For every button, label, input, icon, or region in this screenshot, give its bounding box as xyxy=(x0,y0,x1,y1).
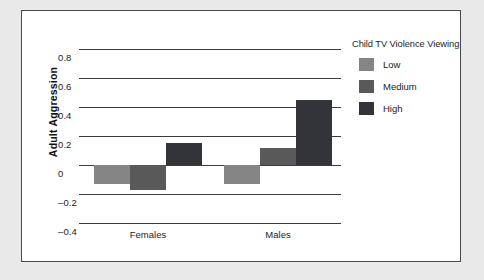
x-axis-label-females: Females xyxy=(108,229,188,240)
legend-items: LowMediumHigh xyxy=(352,58,460,115)
legend-swatch-high xyxy=(359,102,374,115)
bar-males-low xyxy=(224,165,260,184)
legend-item-low: Low xyxy=(352,58,460,71)
legend-label-high: High xyxy=(383,103,403,114)
bar-females-medium xyxy=(130,165,166,190)
chart-legend: Child TV Violence Viewing LowMediumHigh xyxy=(352,39,460,124)
legend-label-low: Low xyxy=(383,59,400,70)
bar-males-high xyxy=(296,100,332,165)
bar-females-low xyxy=(94,165,130,184)
legend-item-medium: Medium xyxy=(352,80,460,93)
bar-females-high xyxy=(166,143,202,165)
legend-swatch-low xyxy=(359,58,374,71)
bar-males-medium xyxy=(260,148,296,165)
chart-figure-frame: Adult Aggression 0.80.60.40.20–0.2–0.4 F… xyxy=(21,10,461,262)
legend-swatch-medium xyxy=(359,80,374,93)
x-axis-label-males: Males xyxy=(238,229,318,240)
legend-title: Child TV Violence Viewing xyxy=(352,39,460,49)
legend-item-high: High xyxy=(352,102,460,115)
bars-layer xyxy=(79,11,341,263)
legend-label-medium: Medium xyxy=(383,81,417,92)
